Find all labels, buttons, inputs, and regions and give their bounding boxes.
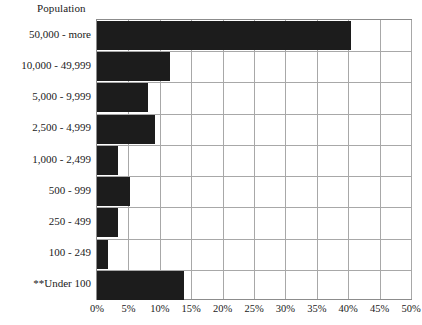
x-axis-tick-label: 20% <box>213 302 232 316</box>
bar-row <box>97 207 411 238</box>
bar-row <box>97 239 411 270</box>
population-bar-chart: Population 50,000 - more10,000 - 49,9995… <box>0 0 422 325</box>
x-axis-tick-label: 25% <box>244 302 263 316</box>
bar-row <box>97 114 411 145</box>
y-axis-label: 1,000 - 2,499 <box>0 153 91 166</box>
y-axis-label: 250 - 499 <box>0 215 91 228</box>
x-axis-labels: 0%5%10%15%20%25%30%35%40%45%50% <box>0 302 422 322</box>
bar-row <box>97 51 411 82</box>
x-axis-tick-label: 5% <box>121 302 135 316</box>
bar <box>97 240 108 269</box>
y-axis-label: 5,000 - 9,999 <box>0 90 91 103</box>
bar-row <box>97 270 411 301</box>
bar-row <box>97 82 411 113</box>
bar <box>97 21 351 50</box>
y-axis-label: **Under 100 <box>0 277 91 290</box>
chart-title: Population <box>37 1 86 15</box>
x-axis-tick-label: 30% <box>276 302 295 316</box>
x-axis-tick-label: 35% <box>307 302 326 316</box>
y-axis-label: 500 - 999 <box>0 184 91 197</box>
bar <box>97 115 155 144</box>
y-axis-label: 100 - 249 <box>0 246 91 259</box>
x-axis-tick-label: 45% <box>370 302 389 316</box>
y-axis-label: 50,000 - more <box>0 28 91 41</box>
x-axis-tick-label: 50% <box>401 302 420 316</box>
bar-row <box>97 176 411 207</box>
x-axis-tick-label: 40% <box>339 302 358 316</box>
bar-row <box>97 20 411 51</box>
gridline-vertical <box>411 20 412 299</box>
x-axis-tick-label: 0% <box>90 302 104 316</box>
bar <box>97 146 118 175</box>
y-axis-label: 2,500 - 4,999 <box>0 121 91 134</box>
bars-layer <box>97 20 411 299</box>
bar <box>97 52 170 81</box>
x-axis-tick-label: 10% <box>150 302 169 316</box>
bar <box>97 271 184 300</box>
plot-area <box>96 19 412 300</box>
bar <box>97 177 130 206</box>
x-axis-tick-label: 15% <box>182 302 201 316</box>
bar-row <box>97 145 411 176</box>
bar <box>97 208 118 237</box>
y-axis-labels: 50,000 - more10,000 - 49,9995,000 - 9,99… <box>0 19 91 300</box>
y-axis-label: 10,000 - 49,999 <box>0 59 91 72</box>
bar <box>97 83 148 112</box>
